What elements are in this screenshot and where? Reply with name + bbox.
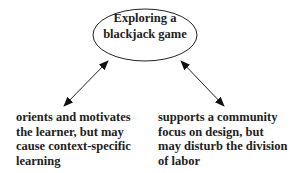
center-node-label: Exploring a blackjack game — [93, 10, 197, 42]
left-note-line-1: orients and motivates — [16, 110, 131, 125]
left-note-line-2: the learner, but may — [16, 125, 131, 140]
center-node-line-1: Exploring a — [93, 10, 197, 26]
right-note-line-4: of labor — [158, 154, 288, 169]
center-node-line-2: blackjack game — [93, 26, 197, 42]
right-note-line-2: focus on design, but — [158, 125, 288, 140]
right-note-line-3: may disturb the division — [158, 139, 288, 154]
left-note-line-4: learning — [16, 154, 131, 169]
right-note: supports a community focus on design, bu… — [158, 110, 288, 168]
right-note-line-1: supports a community — [158, 110, 288, 125]
left-double-arrow — [64, 61, 108, 106]
left-note-line-3: cause context-specific — [16, 139, 131, 154]
right-double-arrow — [181, 61, 224, 106]
left-note: orients and motivates the learner, but m… — [16, 110, 131, 168]
